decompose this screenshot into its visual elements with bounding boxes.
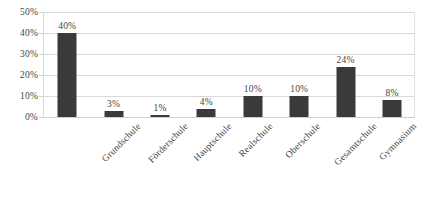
x-axis-label-realschule: Realschule <box>237 121 276 160</box>
bar-value-realschule: 4% <box>200 97 213 107</box>
bar-gesamtschule[interactable] <box>290 96 309 117</box>
y-axis-tick-label: 40% <box>0 28 38 38</box>
bar-slot-oberschule: 10% <box>230 12 276 117</box>
bar-value-foerderschule: 3% <box>107 99 120 109</box>
x-axis-label-grundschule: Grundschule <box>100 121 144 165</box>
y-axis-tick-label: 20% <box>0 70 38 80</box>
bar-chart: 50% 40% 30% 20% 10% 0% 40% 3% <box>0 0 425 202</box>
bar-value-grundschule: 40% <box>58 21 76 31</box>
bar-value-berufsbildende-schule: 8% <box>385 88 398 98</box>
bar-value-gesamtschule: 10% <box>290 84 308 94</box>
x-axis-label-gymnasium: Gymnasium <box>377 121 419 163</box>
bar-value-gymnasium: 24% <box>337 55 355 65</box>
bar-oberschule[interactable] <box>243 96 262 117</box>
bar-slot-berufsbildende-schule: 8% <box>369 12 415 117</box>
bar-grundschule[interactable] <box>58 33 77 117</box>
bar-berufsbildende-schule[interactable] <box>382 100 401 117</box>
x-axis-label-foerderschule: Förderschule <box>146 121 191 166</box>
bar-slot-grundschule: 40% <box>44 12 90 117</box>
y-axis-tick-label: 0% <box>0 112 38 122</box>
bar-slot-gesamtschule: 10% <box>276 12 322 117</box>
x-axis-label-gesamtschule: Gesamtschule <box>332 121 379 168</box>
x-axis-labels: Grundschule Förderschule Hauptschule Rea… <box>44 117 415 202</box>
bar-realschule[interactable] <box>197 109 216 117</box>
bar-value-oberschule: 10% <box>244 84 262 94</box>
bar-slot-hauptschule: 1% <box>137 12 183 117</box>
bar-gymnasium[interactable] <box>336 67 355 117</box>
bar-slot-realschule: 4% <box>183 12 229 117</box>
y-axis-tick-label: 50% <box>0 7 38 17</box>
x-axis-label-oberschule: Oberschule <box>283 121 323 161</box>
bar-value-hauptschule: 1% <box>153 103 166 113</box>
y-axis-labels: 50% 40% 30% 20% 10% 0% <box>0 0 38 202</box>
x-axis-label-hauptschule: Hauptschule <box>192 121 235 164</box>
y-axis-tick-label: 10% <box>0 91 38 101</box>
bar-slot-foerderschule: 3% <box>90 12 136 117</box>
y-axis-tick-label: 30% <box>0 49 38 59</box>
bar-slot-gymnasium: 24% <box>322 12 368 117</box>
bar-series: 40% 3% 1% 4% 10% 10% 24% 8% <box>44 12 415 117</box>
